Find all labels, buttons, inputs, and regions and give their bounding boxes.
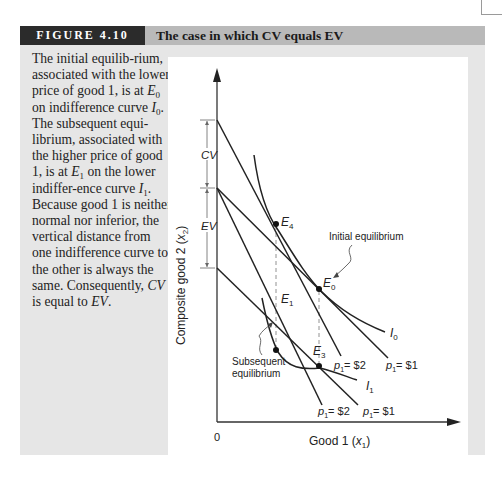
label-price-lower-2: p1= $2 [317, 405, 350, 419]
y-axis-label: Composite good 2 (x2) [174, 226, 190, 345]
point-e4 [273, 221, 279, 227]
annotation-subsequent-line1: Subsequent [232, 356, 286, 367]
annotation-subsequent-line2: equilibrium [232, 368, 280, 379]
point-e1 [273, 347, 279, 353]
cv-label: CV [201, 149, 218, 161]
label-price-upper-2: p1= $2 [333, 359, 366, 373]
point-e0 [316, 286, 322, 292]
origin-label: 0 [214, 431, 220, 443]
x-axis-label: Good 1 (x1) [309, 434, 370, 450]
annotation-initial-equilibrium: Initial equilibrium [329, 231, 403, 242]
label-price-upper-1: p1= $1 [385, 359, 418, 373]
ev-label: EV [201, 220, 218, 232]
cv-ev-diagram: CV EV Composite good 2 (x2) 0 Good 1 (x1… [0, 0, 502, 478]
label-price-lower-1: p1= $1 [362, 405, 395, 419]
point-e3 [316, 363, 322, 369]
